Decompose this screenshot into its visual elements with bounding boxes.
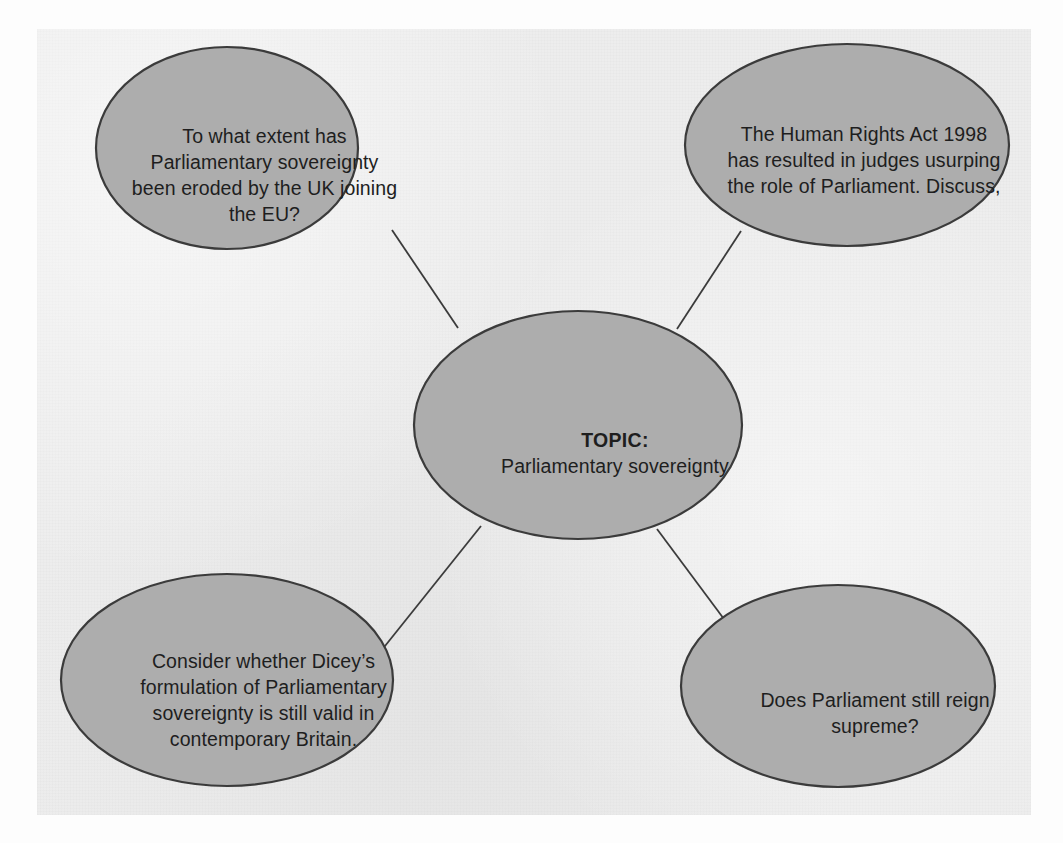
connector-center-to-top-right bbox=[677, 231, 741, 329]
page-root: To what extent has Parliamentary soverei… bbox=[0, 0, 1063, 843]
branch-node-top-right[interactable] bbox=[685, 44, 1009, 246]
center-topic-node[interactable] bbox=[414, 311, 742, 539]
branch-node-top-left[interactable] bbox=[96, 47, 358, 249]
mind-map-panel: To what extent has Parliamentary soverei… bbox=[37, 29, 1031, 815]
mind-map-canvas bbox=[37, 29, 1031, 815]
branch-node-bottom-left[interactable] bbox=[61, 574, 393, 786]
connector-center-to-top-left bbox=[392, 230, 458, 328]
connector-center-to-bottom-left bbox=[381, 526, 481, 651]
branch-node-bottom-right[interactable] bbox=[681, 585, 995, 787]
